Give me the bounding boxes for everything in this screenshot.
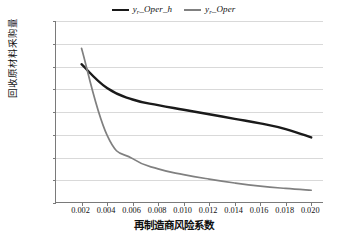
y-tick-mark xyxy=(53,89,56,90)
x-tick-mark xyxy=(260,203,261,206)
legend-item-series-0: yr_Oper_h xyxy=(112,4,172,17)
chart-legend: yr_Oper_h yr_Oper xyxy=(0,2,347,18)
legend-item-series-1: yr_Oper xyxy=(184,4,235,17)
x-axis-title: 再制造商风险系数 xyxy=(0,219,347,231)
x-tick-mark xyxy=(209,203,210,206)
x-tick-mark xyxy=(158,203,159,206)
legend-swatch-series-0 xyxy=(112,9,129,11)
series-layer xyxy=(56,21,324,203)
legend-label-rest-0: _Oper_h xyxy=(139,4,172,14)
y-tick-mark xyxy=(53,112,56,113)
plot-area xyxy=(55,21,323,203)
legend-label-series-0: yr_Oper_h xyxy=(133,4,172,17)
x-axis-tick-label: 0.006 xyxy=(122,206,141,215)
x-axis-tick-label: 0.020 xyxy=(301,206,320,215)
x-axis-tick-label: 0.004 xyxy=(97,206,116,215)
y-tick-mark xyxy=(53,21,56,22)
y-tick-mark xyxy=(53,180,56,181)
x-tick-mark xyxy=(184,203,185,206)
legend-label-rest-1: _Oper xyxy=(212,4,236,14)
x-tick-mark xyxy=(235,203,236,206)
y-axis-title: 回收原材料采购量 xyxy=(7,0,18,118)
series-line-0 xyxy=(82,64,312,137)
x-tick-mark xyxy=(107,203,108,206)
x-axis-tick-label: 0.008 xyxy=(148,206,167,215)
legend-label-series-1: yr_Oper xyxy=(205,4,235,17)
y-tick-mark xyxy=(53,158,56,159)
x-axis-tick-label: 0.014 xyxy=(224,206,243,215)
y-tick-mark xyxy=(53,67,56,68)
y-tick-mark xyxy=(53,203,56,204)
x-axis-tick-label: 0.010 xyxy=(173,206,192,215)
y-tick-mark xyxy=(53,44,56,45)
x-tick-mark xyxy=(286,203,287,206)
x-axis-tick-label: 0.018 xyxy=(275,206,294,215)
x-axis-tick-label: 0.016 xyxy=(250,206,269,215)
x-tick-mark xyxy=(133,203,134,206)
x-axis-tick-label: 0.002 xyxy=(71,206,90,215)
series-line-1 xyxy=(82,48,312,190)
chart-figure: yr_Oper_h yr_Oper 01 0002 0003 0004 0005… xyxy=(0,0,347,244)
x-tick-mark xyxy=(82,203,83,206)
x-tick-mark xyxy=(311,203,312,206)
y-tick-mark xyxy=(53,135,56,136)
x-axis-tick-label: 0.012 xyxy=(199,206,218,215)
legend-swatch-series-1 xyxy=(184,9,201,11)
